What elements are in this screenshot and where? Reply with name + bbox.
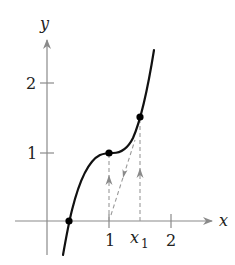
inflection-point — [105, 149, 112, 156]
x1-subscript: 1 — [141, 237, 149, 251]
root-point — [65, 217, 72, 224]
x1-label: x — [130, 228, 139, 247]
x-tick-label-2: 2 — [166, 231, 176, 250]
x-axis-label: x — [219, 211, 228, 230]
y-axis-label: y — [39, 14, 50, 33]
diagonal-arrow-icon — [123, 169, 128, 178]
y-tick-label-1: 1 — [27, 144, 37, 163]
x1-curve-point — [136, 113, 143, 120]
x-tick-label-1: 1 — [105, 231, 115, 250]
graph-canvas: y x 2 1 1 2 x 1 — [0, 0, 235, 265]
y-tick-label-2: 2 — [26, 74, 36, 93]
